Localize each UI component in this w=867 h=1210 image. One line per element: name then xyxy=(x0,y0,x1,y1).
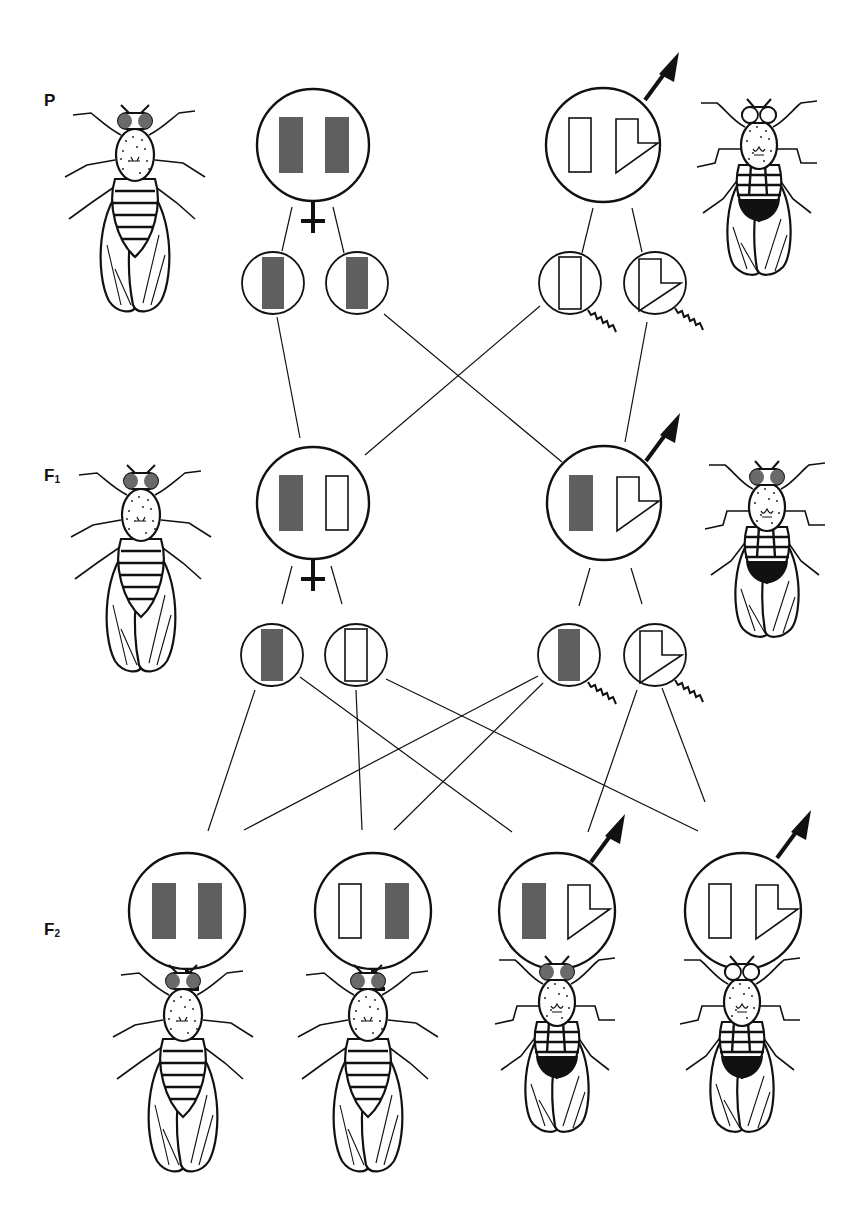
p-female-genotype xyxy=(257,89,369,233)
p-female-gametes xyxy=(242,252,388,314)
male-symbol xyxy=(645,52,679,100)
inheritance-diagram xyxy=(0,0,867,1210)
f1-male-fly xyxy=(705,461,825,637)
f2-fly-1 xyxy=(113,965,253,1171)
f1-male-gametes xyxy=(538,624,703,704)
p-male-gametes xyxy=(539,252,703,332)
f2-offspring-2 xyxy=(298,853,438,1171)
male-symbol xyxy=(646,413,680,461)
female-symbol xyxy=(301,559,325,591)
p-female-fly xyxy=(65,105,205,311)
generation-label-f1: F1 xyxy=(44,466,60,486)
p-male-fly xyxy=(697,99,817,275)
f2-generation xyxy=(113,810,811,1171)
f1-female-fly xyxy=(71,465,211,671)
generation-label-p: P xyxy=(44,91,55,111)
p-generation xyxy=(65,52,817,332)
f1-male-genotype xyxy=(547,413,680,560)
male-symbol xyxy=(591,814,625,862)
f1-female-gametes xyxy=(241,624,387,686)
f2-offspring-3 xyxy=(495,814,625,1132)
f2-offspring-4 xyxy=(680,810,811,1132)
male-symbol xyxy=(777,810,811,858)
f2-fly-2 xyxy=(298,965,438,1171)
figure-caption-cutoff xyxy=(28,1196,848,1210)
female-symbol xyxy=(301,201,325,233)
f2-fly-3 xyxy=(495,956,615,1132)
f2-fly-4 xyxy=(680,956,800,1132)
f2-offspring-1 xyxy=(113,853,253,1171)
f1-generation xyxy=(71,413,825,704)
generation-label-f2: F2 xyxy=(44,920,60,940)
p-male-genotype xyxy=(546,52,679,202)
f1-female-genotype xyxy=(257,447,369,591)
